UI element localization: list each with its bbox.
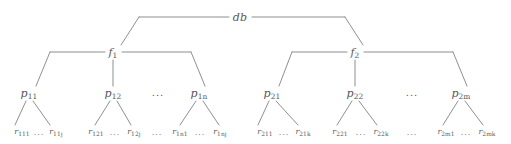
f1-drop-left [36,52,50,86]
node-subscript: 12j [131,131,141,137]
edge-group [15,17,483,125]
records-2-2-ellipsis: ... [356,129,367,137]
f2-drop-right [453,52,467,86]
node-subscript: 1nj [217,131,227,137]
node-subscript: 111 [18,131,30,137]
node-record-r21k: r21k [295,128,310,136]
p12-edge-left [95,101,110,125]
p22-edge-right [359,101,377,125]
node-subscript: 2m [459,92,471,101]
records-1-2-ellipsis: ... [110,129,121,137]
node-subscript: 21 [271,92,281,101]
node-db-root: db [233,12,247,23]
node-file-f1: f1 [109,47,118,58]
node-page-p12: p12 [105,88,122,99]
tree-edges-layer [0,0,511,144]
node-subscript: 12 [112,92,122,101]
node-record-r111: r111 [14,128,29,136]
node-subscript: 22 [354,92,364,101]
node-page-p1n: p1n [191,88,208,99]
p2m-edge-right [465,101,483,125]
node-base: p [451,87,458,100]
p22-edge-left [337,101,352,125]
node-subscript: 2m1 [441,131,454,137]
hierarchy-tree-diagram: dbf1f2p11p12p1np21p22p2mr111r11jr121r12j… [0,0,511,144]
node-record-r2m1: r2m1 [437,128,454,136]
node-record-r1n1: r1n1 [172,128,187,136]
records-1-n-ellipsis: ... [195,129,206,137]
p12-edge-right [117,101,131,125]
root-drop-left [121,17,139,45]
node-record-r2mk: r2mk [478,128,495,136]
node-page-p21: p21 [264,88,281,99]
node-record-r1nj: r1nj [213,128,227,136]
node-subscript: 1n1 [176,131,188,137]
node-base: db [233,11,247,24]
node-subscript: 11 [28,92,38,101]
records-2-1-ellipsis: ... [279,129,290,137]
node-file-f2: f2 [351,47,360,58]
node-subscript: 22k [377,131,388,137]
node-subscript: 1n [198,92,208,101]
node-base: p [191,87,198,100]
p1n-edge-right [203,101,219,125]
node-subscript: 11j [53,131,63,137]
node-subscript: 221 [336,131,348,137]
node-page-p11: p11 [21,88,38,99]
p11-edge-left [15,101,26,125]
p11-edge-right [33,101,50,125]
node-record-r121: r121 [88,128,103,136]
node-base: p [264,87,271,100]
node-base: p [347,87,354,100]
node-record-r22k: r22k [373,128,388,136]
node-record-r11j: r11j [49,128,62,136]
node-subscript: 2 [355,51,360,60]
node-subscript: 211 [261,131,273,137]
pages-right-ellipsis: ... [406,88,419,98]
node-base: p [21,87,28,100]
node-subscript: 121 [92,131,104,137]
node-base: p [105,87,112,100]
p21-edge-right [276,101,298,125]
node-record-r211: r211 [257,128,272,136]
node-record-r221: r221 [332,128,347,136]
p1n-edge-left [180,101,196,125]
records-1-mid-ellipsis: ... [152,129,163,137]
node-subscript: 1 [113,51,118,60]
f1-drop-right [191,52,205,86]
node-subscript: 21k [299,131,310,137]
records-1-1-ellipsis: ... [34,129,45,137]
node-record-r12j: r12j [127,128,140,136]
records-2-m-ellipsis: ... [461,129,472,137]
f2-drop-left [279,52,292,86]
root-drop-right [345,17,363,45]
node-page-p2m: p2m [451,88,470,99]
pages-left-ellipsis: ... [152,88,165,98]
records-2-mid-ellipsis: ... [407,129,418,137]
p2m-edge-left [443,101,458,125]
p21-edge-left [258,101,269,125]
node-subscript: 2mk [482,131,495,137]
node-page-p22: p22 [347,88,364,99]
